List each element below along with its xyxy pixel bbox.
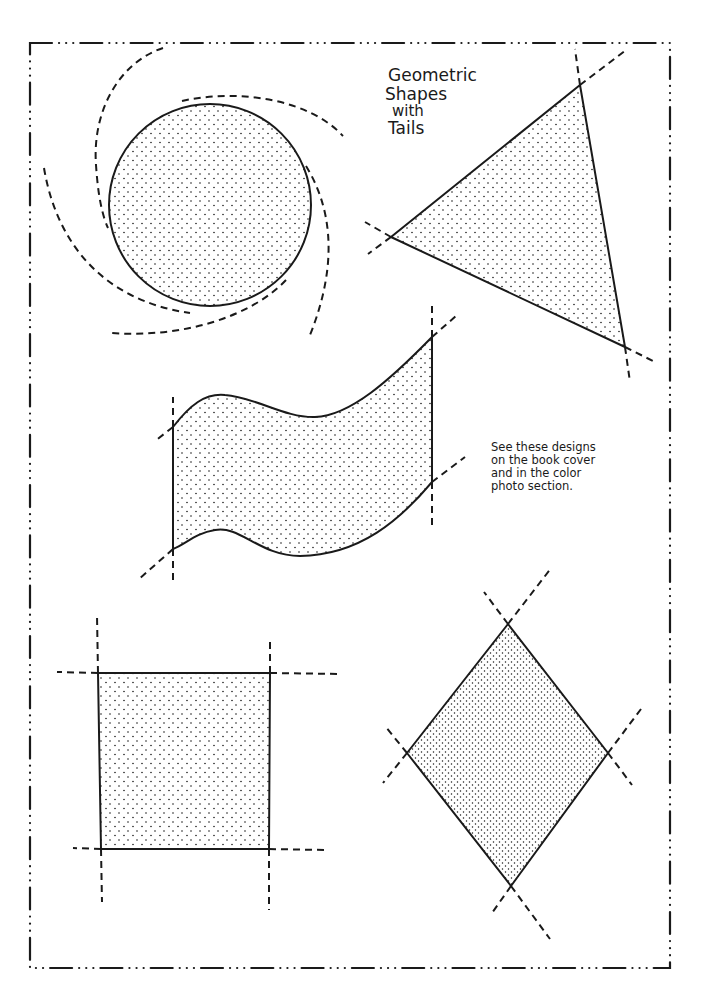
- title-line: with: [392, 104, 477, 119]
- diagram-title: Geometric Shapes with Tails: [388, 66, 477, 138]
- title-line: Geometric: [388, 66, 477, 85]
- note-line: photo section.: [491, 480, 651, 493]
- title-line: Tails: [388, 119, 477, 138]
- wave-banner-shape: [138, 306, 465, 580]
- diamond-shape: [383, 567, 641, 939]
- circle-shape: [44, 48, 343, 335]
- illustration-canvas: [0, 0, 701, 992]
- caption-note: See these designs on the book cover and …: [491, 441, 651, 493]
- square-shape: [57, 615, 340, 910]
